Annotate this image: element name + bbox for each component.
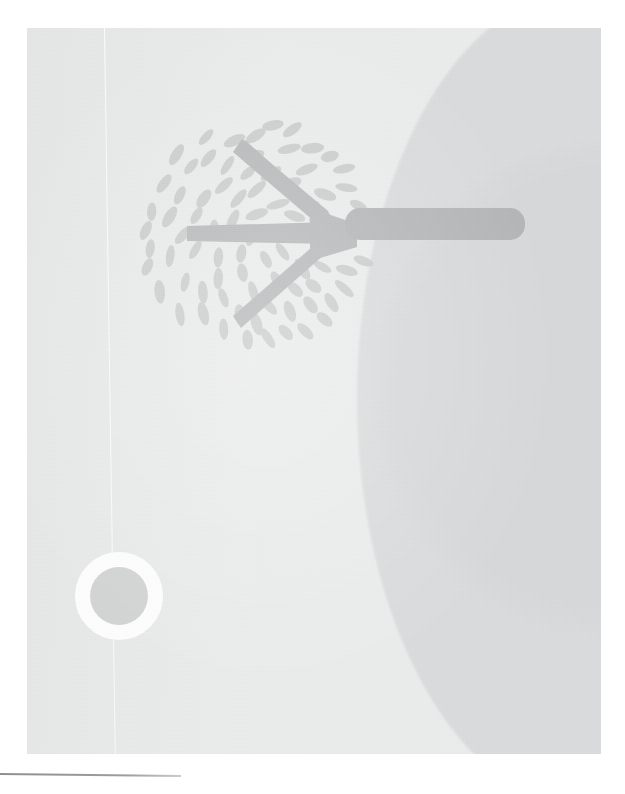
sun-illustration bbox=[27, 28, 601, 754]
bottom-rule bbox=[0, 773, 181, 777]
artwork-plate bbox=[27, 28, 601, 754]
page-root bbox=[0, 0, 625, 794]
sun-disc bbox=[90, 567, 148, 625]
